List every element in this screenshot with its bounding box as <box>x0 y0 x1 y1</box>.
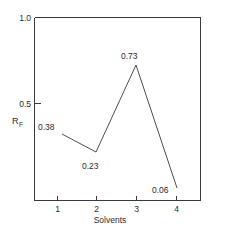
data-series-line <box>62 65 177 188</box>
point-label-solvent-1: 0.38 <box>38 122 55 132</box>
y-axis-title-base: R <box>12 116 19 126</box>
ytick-label-0-5: 0.5 <box>19 99 31 109</box>
x-axis-title: Solvents <box>94 215 127 225</box>
xtick-label-4: 4 <box>174 204 179 214</box>
xtick-label-1: 1 <box>55 204 60 214</box>
point-label-solvent-2: 0.23 <box>82 161 99 171</box>
point-label-solvent-4: 0.06 <box>152 185 169 195</box>
y-axis-title-subscript: F <box>19 121 23 128</box>
line-chart-svg: 1.0 0.5 R F 1 2 3 4 Solvents 0.38 0.23 0… <box>0 0 229 233</box>
ytick-label-1-0: 1.0 <box>19 13 31 23</box>
point-label-solvent-3: 0.73 <box>121 51 138 61</box>
xtick-label-2: 2 <box>94 204 99 214</box>
chart-figure: 1.0 0.5 R F 1 2 3 4 Solvents 0.38 0.23 0… <box>0 0 229 233</box>
xtick-label-3: 3 <box>134 204 139 214</box>
